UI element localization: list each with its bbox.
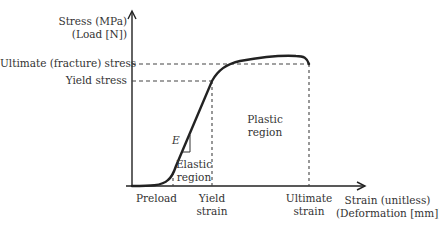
elastic-region-label: Elastic region: [175, 158, 213, 184]
yield-strain-line2: strain: [192, 205, 232, 218]
plastic-region-label: Plastic region: [240, 113, 290, 139]
ultimate-strain-line1: Ultimate: [284, 192, 334, 205]
yield-strain-label: Yield strain: [192, 192, 232, 218]
x-axis-label-line2: (Deformation [mm]): [336, 207, 439, 220]
plastic-region-line1: Plastic: [240, 113, 290, 126]
x-axis-label-line1: Strain (unitless): [336, 194, 439, 207]
modulus-symbol: E: [172, 134, 180, 147]
yield-stress-label: Yield stress: [0, 74, 127, 87]
ultimate-strain-line2: strain: [284, 205, 334, 218]
ultimate-strain-label: Ultimate strain: [284, 192, 334, 218]
y-axis-label: Stress (MPa) (Load [N]): [40, 15, 127, 41]
preload-label: Preload: [136, 192, 177, 205]
elastic-region-line1: Elastic: [175, 158, 213, 171]
elastic-region-line2: region: [175, 171, 213, 184]
yield-strain-line1: Yield: [192, 192, 232, 205]
x-axis-label: Strain (unitless) (Deformation [mm]): [336, 194, 439, 220]
ultimate-stress-label: Ultimate (fracture) stress: [0, 57, 127, 70]
plastic-region-line2: region: [240, 126, 290, 139]
y-axis-label-line1: Stress (MPa): [40, 15, 127, 28]
y-axis-label-line2: (Load [N]): [40, 28, 127, 41]
